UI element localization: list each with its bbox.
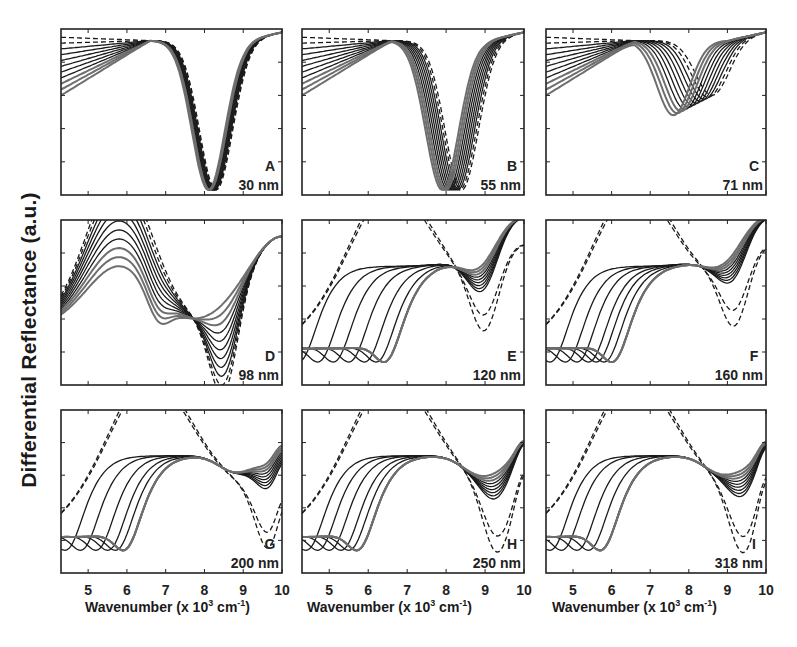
x-tick-label: 8 bbox=[442, 582, 450, 598]
panel-letter: D bbox=[265, 348, 275, 364]
panel-D: D98 nm bbox=[61, 212, 282, 393]
spectrum-curve bbox=[61, 32, 282, 190]
x-tick-label: 9 bbox=[481, 582, 489, 598]
x-tick-label: 6 bbox=[608, 582, 616, 598]
panel-thickness: 160 nm bbox=[715, 367, 763, 383]
panel-letter: F bbox=[750, 348, 759, 364]
panel-thickness: 30 nm bbox=[239, 177, 279, 193]
x-tick-label: 8 bbox=[201, 582, 209, 598]
spectrum-curve bbox=[61, 212, 282, 367]
spectrum-curve bbox=[302, 217, 524, 362]
curves bbox=[546, 402, 766, 553]
panel-thickness: 200 nm bbox=[231, 555, 279, 571]
spectrum-curve bbox=[302, 218, 524, 361]
curves bbox=[302, 212, 524, 362]
panel-thickness: 318 nm bbox=[715, 555, 763, 571]
x-axis-label-col3: Wavenumber (x 103 cm-1) bbox=[552, 598, 717, 615]
panel-letter: I bbox=[752, 536, 756, 552]
panel-thickness: 98 nm bbox=[239, 367, 279, 383]
curves bbox=[61, 402, 282, 551]
spectrum-curve bbox=[302, 217, 524, 362]
x-tick-label: 6 bbox=[123, 582, 131, 598]
panel-H: 5678910H250 nm bbox=[302, 402, 532, 598]
x-tick-label: 5 bbox=[84, 582, 92, 598]
panel-A: A30 nm bbox=[61, 29, 282, 195]
x-tick-label: 7 bbox=[162, 582, 170, 598]
spectrum-curve bbox=[302, 218, 524, 363]
spectrum-curve bbox=[302, 217, 524, 362]
panel-B: B55 nm bbox=[302, 29, 524, 195]
spectrum-curve bbox=[61, 402, 282, 533]
spectrum-curve bbox=[302, 217, 524, 362]
panel-thickness: 55 nm bbox=[481, 177, 521, 193]
panel-letter: A bbox=[265, 158, 275, 174]
spectrum-curve bbox=[302, 218, 524, 363]
x-axis-label-col2: Wavenumber (x 103 cm-1) bbox=[307, 598, 472, 615]
x-tick-label: 7 bbox=[403, 582, 411, 598]
spectrum-curve bbox=[61, 445, 282, 550]
panel-frame bbox=[302, 220, 524, 385]
figure-canvas: A30 nmB55 nmC71 nmD98 nmE120 nmF160 nm56… bbox=[0, 0, 797, 647]
spectrum-curve bbox=[546, 442, 766, 550]
panel-letter: H bbox=[507, 536, 517, 552]
curves bbox=[302, 32, 524, 190]
spectrum-curve bbox=[302, 218, 524, 363]
x-tick-label: 9 bbox=[239, 582, 247, 598]
spectrum-curve bbox=[546, 402, 766, 553]
panel-letter: C bbox=[749, 158, 759, 174]
panel-letter: B bbox=[507, 158, 517, 174]
panel-frame bbox=[302, 410, 524, 573]
spectrum-curve bbox=[546, 219, 766, 362]
x-tick-label: 10 bbox=[516, 582, 532, 598]
panel-letter: E bbox=[507, 348, 516, 364]
panel-thickness: 250 nm bbox=[473, 555, 521, 571]
panel-F: F160 nm bbox=[546, 212, 766, 385]
spectrum-curve bbox=[546, 212, 766, 325]
curves bbox=[61, 32, 282, 190]
y-axis-label: Differential Reflectance (a.u.) bbox=[12, 130, 46, 550]
x-tick-label: 7 bbox=[646, 582, 654, 598]
x-tick-label: 5 bbox=[325, 582, 333, 598]
y-axis-label-text: Differential Reflectance (a.u.) bbox=[17, 192, 41, 488]
curves bbox=[302, 402, 524, 552]
x-tick-label: 8 bbox=[685, 582, 693, 598]
x-tick-label: 10 bbox=[274, 582, 290, 598]
spectrum-curve bbox=[302, 217, 524, 362]
curves bbox=[546, 32, 766, 115]
x-axis-label-col1: Wavenumber (x 103 cm-1) bbox=[85, 598, 250, 615]
panel-frame bbox=[61, 410, 282, 573]
spectrum-curve bbox=[546, 446, 766, 550]
panel-thickness: 120 nm bbox=[473, 367, 521, 383]
x-tick-label: 9 bbox=[724, 582, 732, 598]
panel-letter: G bbox=[265, 536, 276, 552]
panel-G: 5678910G200 nm bbox=[61, 402, 290, 598]
panel-E: E120 nm bbox=[302, 212, 524, 385]
panel-I: 5678910I318 nm bbox=[546, 402, 774, 598]
panel-C: C71 nm bbox=[546, 29, 766, 195]
curves bbox=[546, 212, 766, 362]
panel-frame bbox=[546, 220, 766, 385]
x-tick-label: 10 bbox=[758, 582, 774, 598]
spectrum-curve bbox=[302, 443, 524, 551]
x-tick-label: 6 bbox=[364, 582, 372, 598]
panel-thickness: 71 nm bbox=[723, 177, 763, 193]
x-tick-label: 5 bbox=[569, 582, 577, 598]
